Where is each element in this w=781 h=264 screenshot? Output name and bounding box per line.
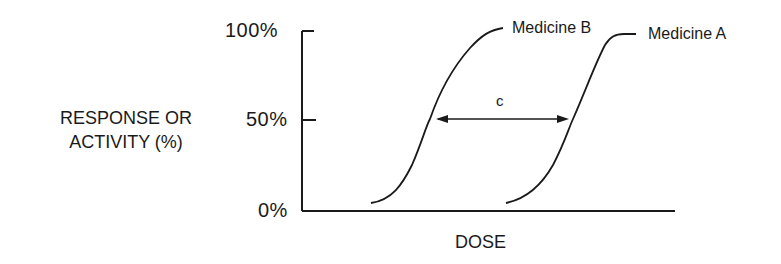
series-label-medicine-a: Medicine A	[648, 25, 726, 43]
curve-medicine-b	[371, 28, 503, 203]
arrow-head-right-icon	[557, 115, 569, 123]
arrow-head-left-icon	[436, 115, 448, 123]
x-axis-title: DOSE	[455, 232, 506, 253]
y-tick-label-100: 100%	[225, 19, 278, 42]
y-tick-label-50: 50%	[246, 108, 288, 131]
arrow-label-c: c	[496, 92, 504, 109]
y-axis-title-line1: RESPONSE OR	[36, 106, 216, 130]
series-label-medicine-b: Medicine B	[512, 19, 591, 37]
y-tick-label-0: 0%	[258, 199, 288, 222]
y-axis-title: RESPONSE OR ACTIVITY (%)	[36, 106, 216, 154]
y-axis-title-line2: ACTIVITY (%)	[36, 130, 216, 154]
